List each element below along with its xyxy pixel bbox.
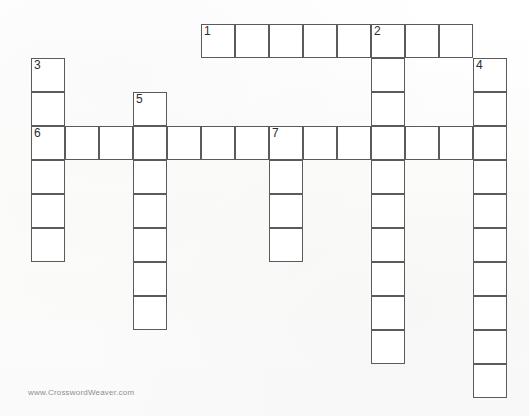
crossword-cell-numbered-7[interactable]: 7	[269, 126, 303, 160]
crossword-cell[interactable]	[269, 228, 303, 262]
crossword-cell-numbered-3[interactable]: 3	[31, 58, 65, 92]
crossword-cell[interactable]	[439, 24, 473, 58]
crossword-grid: 1234567	[0, 0, 529, 416]
crossword-cell[interactable]	[473, 296, 507, 330]
crossword-cell[interactable]	[371, 160, 405, 194]
cell-number-7: 7	[272, 127, 279, 140]
crossword-cell[interactable]	[201, 126, 235, 160]
crossword-cell[interactable]	[133, 160, 167, 194]
crossword-cell[interactable]	[337, 126, 371, 160]
crossword-cell[interactable]	[235, 126, 269, 160]
crossword-cell[interactable]	[269, 160, 303, 194]
crossword-cell[interactable]	[371, 228, 405, 262]
crossword-cell[interactable]	[133, 194, 167, 228]
crossword-weaver-watermark: www.CrosswordWeaver.com	[28, 388, 134, 397]
cell-number-6: 6	[34, 127, 41, 140]
crossword-cell[interactable]	[303, 126, 337, 160]
crossword-cell[interactable]	[371, 126, 405, 160]
crossword-cell[interactable]	[473, 126, 507, 160]
crossword-cell[interactable]	[473, 330, 507, 364]
crossword-cell[interactable]	[371, 58, 405, 92]
crossword-cell[interactable]	[371, 92, 405, 126]
crossword-cell[interactable]	[371, 262, 405, 296]
crossword-cell[interactable]	[31, 194, 65, 228]
crossword-cell-numbered-5[interactable]: 5	[133, 92, 167, 126]
cell-number-1: 1	[204, 25, 211, 38]
crossword-cell[interactable]	[167, 126, 201, 160]
crossword-cell[interactable]	[31, 92, 65, 126]
crossword-cell[interactable]	[269, 194, 303, 228]
crossword-cell[interactable]	[269, 24, 303, 58]
crossword-cell[interactable]	[31, 160, 65, 194]
crossword-cell[interactable]	[473, 262, 507, 296]
crossword-cell-numbered-6[interactable]: 6	[31, 126, 65, 160]
crossword-cell[interactable]	[371, 330, 405, 364]
crossword-cell[interactable]	[235, 24, 269, 58]
crossword-cell[interactable]	[473, 194, 507, 228]
crossword-cell[interactable]	[31, 228, 65, 262]
cell-number-2: 2	[374, 25, 381, 38]
crossword-puzzle: 1234567 www.CrosswordWeaver.com	[0, 0, 529, 416]
crossword-cell[interactable]	[405, 24, 439, 58]
crossword-cell[interactable]	[439, 126, 473, 160]
crossword-cell[interactable]	[371, 296, 405, 330]
crossword-cell-numbered-1[interactable]: 1	[201, 24, 235, 58]
crossword-cell[interactable]	[337, 24, 371, 58]
crossword-cell[interactable]	[405, 126, 439, 160]
crossword-cell[interactable]	[133, 228, 167, 262]
crossword-cell[interactable]	[99, 126, 133, 160]
crossword-cell[interactable]	[473, 92, 507, 126]
crossword-cell-numbered-4[interactable]: 4	[473, 58, 507, 92]
crossword-cell[interactable]	[133, 262, 167, 296]
crossword-cell[interactable]	[303, 24, 337, 58]
crossword-cell[interactable]	[133, 126, 167, 160]
cell-number-5: 5	[136, 93, 143, 106]
cell-number-3: 3	[34, 59, 41, 72]
crossword-cell[interactable]	[371, 194, 405, 228]
cell-number-4: 4	[476, 59, 483, 72]
crossword-cell[interactable]	[473, 364, 507, 398]
crossword-cell[interactable]	[473, 160, 507, 194]
crossword-cell[interactable]	[133, 296, 167, 330]
crossword-cell-numbered-2[interactable]: 2	[371, 24, 405, 58]
crossword-cell[interactable]	[65, 126, 99, 160]
crossword-cell[interactable]	[473, 228, 507, 262]
